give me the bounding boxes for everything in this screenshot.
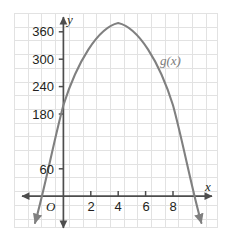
y-tick-label-60: 60: [6, 163, 54, 176]
origin-label: O: [46, 200, 55, 213]
y-axis-label: y: [67, 13, 73, 26]
x-axis-label: x: [205, 180, 211, 193]
curve-label-gx: g(x): [160, 54, 181, 67]
x-tick-label-2: 2: [81, 200, 101, 213]
x-tick-label-4: 4: [108, 200, 128, 213]
y-tick-label-360: 360: [6, 25, 54, 38]
x-tick-label-6: 6: [136, 200, 156, 213]
y-tick-label-300: 300: [6, 53, 54, 66]
graph-figure: 60 180 240 300 360 2 4 6 8 O y x g(x): [0, 0, 231, 239]
y-tick-label-240: 240: [6, 80, 54, 93]
y-tick-label-180: 180: [6, 108, 54, 121]
x-tick-label-8: 8: [163, 200, 183, 213]
